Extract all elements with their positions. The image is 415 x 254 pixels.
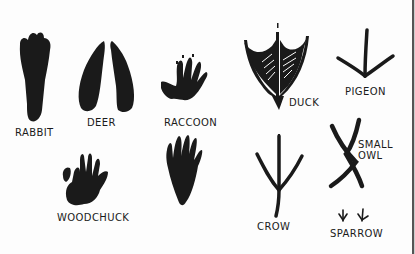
label-small-owl: SMALL OWL — [358, 139, 393, 161]
label-rabbit: RABBIT — [15, 127, 54, 138]
label-woodchuck: WOODCHUCK — [57, 212, 129, 223]
label-crow: CROW — [257, 221, 290, 232]
sparrow-track-icon — [339, 209, 368, 221]
label-deer: DEER — [87, 117, 116, 128]
label-pigeon: PIGEON — [345, 86, 386, 97]
pigeon-track-icon — [338, 30, 393, 76]
crow-track-icon — [257, 136, 302, 216]
raccoon-track-icon — [161, 54, 207, 100]
deer-track-icon — [79, 41, 134, 112]
label-duck: DUCK — [289, 97, 319, 108]
label-sparrow: SPARROW — [330, 228, 383, 239]
woodchuck-track-icon — [63, 154, 108, 206]
animal-tracks-figure: RABBIT DEER RACCOON DUCK PIGEON WOODCHUC… — [0, 0, 415, 254]
label-raccoon: RACCOON — [164, 117, 217, 128]
rabbit-track-icon — [20, 33, 51, 122]
raccoon-hind-track-icon — [166, 135, 202, 205]
